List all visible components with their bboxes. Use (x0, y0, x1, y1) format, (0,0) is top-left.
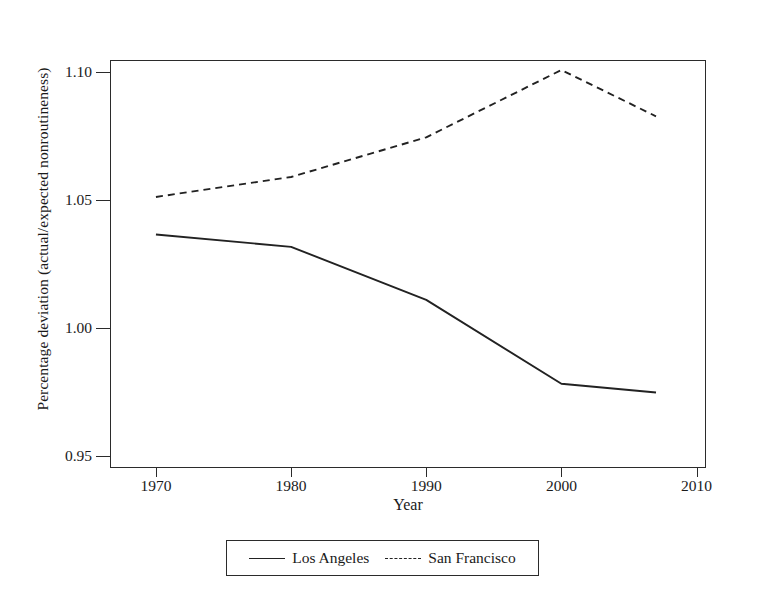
x-tick-mark (561, 468, 562, 477)
x-tick-label: 1990 (386, 477, 466, 495)
x-tick-label: 2010 (657, 477, 737, 495)
x-tick-label: 1980 (251, 477, 331, 495)
chart-figure: Percentage deviation (actual/expected no… (0, 0, 765, 604)
legend-swatch-solid-line-icon (249, 558, 285, 559)
legend-swatch-dashed-line-icon (385, 558, 421, 559)
legend-label: San Francisco (428, 549, 515, 567)
series-line-san-francisco (156, 70, 656, 197)
series-line-los-angeles (156, 235, 656, 393)
x-tick-label: 1970 (116, 477, 196, 495)
x-tick-mark (426, 468, 427, 477)
x-axis-title: Year (110, 496, 706, 514)
legend-item: San Francisco (385, 549, 515, 567)
x-tick-mark (156, 468, 157, 477)
x-tick-label: 2000 (521, 477, 601, 495)
chart-legend: Los AngelesSan Francisco (226, 540, 539, 576)
legend-item: Los Angeles (249, 549, 369, 567)
x-tick-mark (291, 468, 292, 477)
legend-label: Los Angeles (292, 549, 369, 567)
x-tick-mark (697, 468, 698, 477)
